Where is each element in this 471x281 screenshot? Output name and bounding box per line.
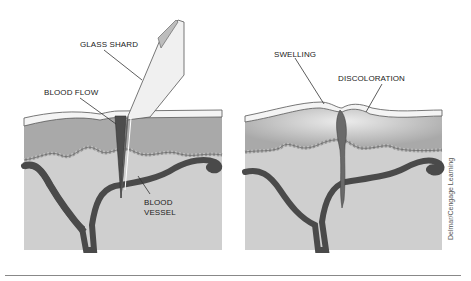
label-blood-vessel-line2: VESSEL [144, 208, 176, 217]
wound-diagram: GLASS SHARD BLOOD FLOW BLOOD VESSEL SWEL… [0, 0, 471, 281]
bottom-divider [5, 275, 461, 276]
left-panel-injury [24, 20, 222, 250]
diagram-canvas [0, 0, 471, 281]
image-credit: Delmar/Cengage Learning [447, 158, 454, 240]
right-panel-inflammation [245, 58, 442, 250]
label-swelling: SWELLING [274, 50, 316, 59]
label-glass-shard: GLASS SHARD [80, 40, 138, 49]
label-blood-vessel-line1: BLOOD [144, 198, 173, 207]
label-blood-flow: BLOOD FLOW [44, 88, 98, 97]
label-discoloration: DISCOLORATION [338, 74, 405, 83]
